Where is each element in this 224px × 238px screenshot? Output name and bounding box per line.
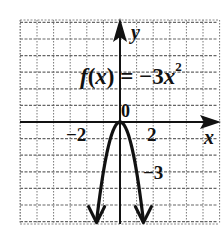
function-var: x xyxy=(164,64,176,89)
tick-label-2: 2 xyxy=(147,125,157,144)
tick-label-neg3: −3 xyxy=(143,163,163,182)
x-axis-label: x xyxy=(204,127,214,147)
tick-label-neg2: −2 xyxy=(66,125,86,144)
y-axis-label: y xyxy=(131,22,140,42)
function-eq: = −3 xyxy=(115,64,164,89)
function-label: f(x) = −3x2 xyxy=(80,64,182,88)
origin-label: 0 xyxy=(121,102,130,120)
function-arg: (x) xyxy=(88,64,115,89)
graph-plot xyxy=(0,0,224,238)
function-exponent: 2 xyxy=(175,59,182,74)
function-name: f xyxy=(80,64,88,89)
